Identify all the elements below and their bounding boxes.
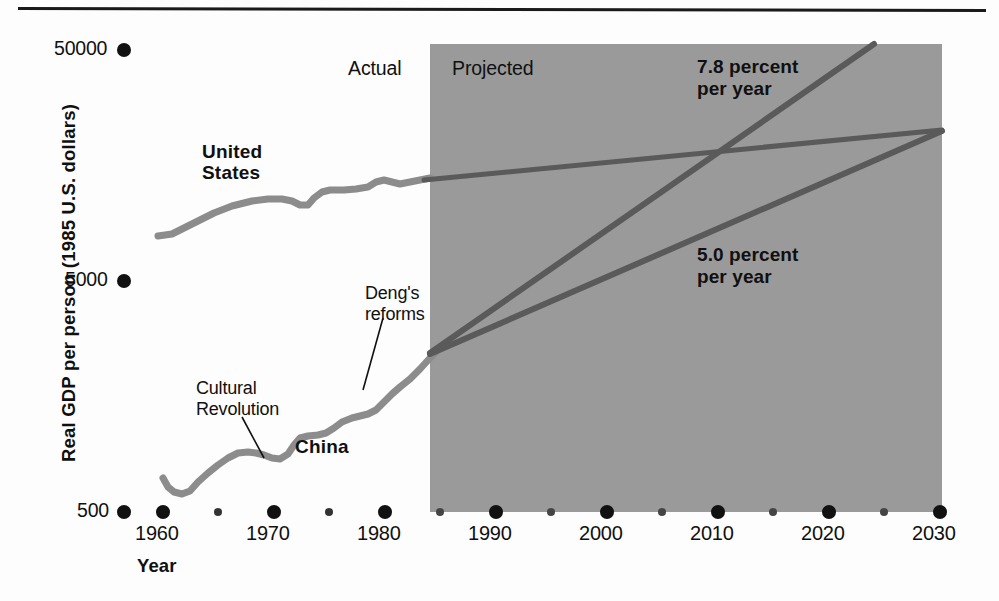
series-label-china: China	[295, 436, 349, 457]
x-tick-label-1990: 1990	[468, 522, 512, 544]
x-tick-dot-1970	[267, 505, 281, 519]
y-tick-dot-500	[117, 505, 131, 519]
x-tick-dot-2020	[822, 505, 836, 519]
x-tick-label-1960: 1960	[135, 522, 179, 544]
figure-root: Real GDP per person (1985 U.S. dollars) …	[0, 0, 999, 601]
x-tick-label-2010: 2010	[690, 522, 734, 544]
y-tick-label-50000: 50000	[54, 38, 107, 60]
china-actual-line	[163, 352, 436, 494]
y-tick-label-5000: 5000	[65, 269, 108, 291]
x-tick-dot-1985	[436, 508, 444, 516]
x-tick-dot-2000	[600, 505, 614, 519]
x-tick-dot-2015	[769, 508, 777, 516]
x-tick-dot-1980	[378, 505, 392, 519]
annotation-cultural-revolution: Cultural Revolution	[196, 378, 279, 419]
united-states-actual-line	[158, 178, 430, 236]
x-tick-label-1980: 1980	[357, 522, 401, 544]
x-tick-dot-1960	[156, 505, 170, 519]
projected-region-shading	[430, 44, 942, 512]
x-tick-label-2030: 2030	[912, 522, 956, 544]
rate-label-50-percent: 5.0 percent per year	[697, 244, 798, 288]
y-tick-dot-5000	[117, 274, 131, 288]
x-tick-dot-1995	[547, 508, 555, 516]
x-tick-dot-2025	[880, 508, 888, 516]
chart-canvas	[0, 0, 999, 601]
zone-label-actual: Actual	[348, 58, 402, 80]
x-tick-dot-1975	[325, 508, 333, 516]
y-tick-label-500: 500	[77, 500, 109, 522]
x-tick-label-2000: 2000	[579, 522, 623, 544]
rate-label-78-percent: 7.8 percent per year	[697, 56, 798, 100]
zone-label-projected: Projected	[452, 58, 533, 80]
x-tick-dot-2005	[658, 508, 666, 516]
x-axis-title: Year	[137, 556, 177, 577]
annotation-dengs-reforms: Deng's reforms	[365, 283, 425, 324]
x-tick-label-1970: 1970	[246, 522, 290, 544]
series-label-united-states: United States	[202, 141, 262, 184]
x-tick-dot-2030	[933, 505, 947, 519]
x-tick-dot-1965	[214, 508, 222, 516]
x-tick-dot-1990	[489, 505, 503, 519]
y-tick-dot-50000	[117, 43, 131, 57]
x-tick-dot-2010	[711, 505, 725, 519]
dengs-reforms-leader-line	[363, 318, 383, 390]
x-tick-label-2020: 2020	[801, 522, 845, 544]
